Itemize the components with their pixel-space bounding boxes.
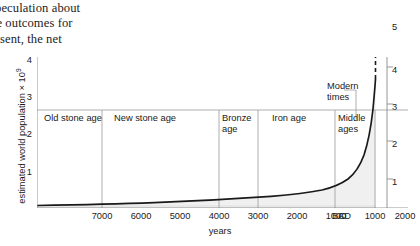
x-axis-title: years [190,226,250,236]
y-tick-left-2: 2 [18,129,32,139]
body-line-2: pe outcomes for [0,16,210,31]
y-tick-left-4: 4 [18,55,32,65]
x-tick-3000bc: 3000 [238,211,278,221]
x-tick-4000bc: 4000 [199,211,239,221]
body-line-1: speculation about [0,1,210,16]
body-line-3: resent, the net [0,32,210,47]
y-ticks-right [387,57,393,179]
y-tick-left-3: 3 [18,92,32,102]
x-tick-7000bc: 7000 [82,211,122,221]
era-label-old-stone-age: Old stone age [44,113,102,124]
era-label-new-stone-age: New stone age [114,113,214,124]
population-curve [37,79,376,206]
y-axis-exponent: 9 [15,68,22,72]
x-tick-5000bc: 5000 [160,211,200,221]
x-tick-6000bc: 6000 [121,211,161,221]
population-growth-chart: estimated world population × 109 4 3 2 1… [0,50,408,246]
y-tick-left-1: 1 [18,167,32,177]
era-label-modern-times: Modern times [327,81,371,102]
x-tick-2000ad: 2000 [385,211,420,221]
y-tick-right-5: 5 [392,22,406,32]
era-label-iron-age: Iron age [272,113,342,124]
era-label-bronze-age: Bronze age [222,113,258,134]
era-label-middle-ages: Middle ages [338,113,374,134]
x-tick-2000bc: 2000 [277,211,317,221]
body-paragraph: speculation about pe outcomes for resent… [0,1,210,47]
